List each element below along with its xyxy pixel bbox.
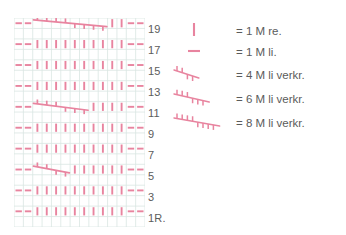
legend-item: = 4 M li verkr.: [172, 64, 344, 85]
legend-label: = 4 M li verkr.: [236, 67, 305, 83]
legend: = 1 M re. = 1 M li. = 4 M li verkr. = 6 …: [172, 20, 344, 135]
row-label: 17: [148, 44, 161, 56]
knitting-chart-root: 19 17 15 13 11 9 7 5 3 1R. = 1 M re. = 1…: [0, 0, 346, 235]
cable-4-symbol: [172, 64, 230, 85]
legend-item: = 6 M li verkr.: [172, 88, 344, 109]
legend-label: = 8 M li verkr.: [236, 115, 305, 131]
purl-stitch-symbol: [172, 41, 230, 62]
stitch-grid: [14, 18, 145, 227]
knit-stitch-symbol: [172, 20, 230, 41]
row-label: 11: [148, 107, 160, 119]
row-label: 5: [148, 170, 154, 182]
cable-6-symbol: [172, 88, 230, 109]
row-label: 1R.: [148, 212, 166, 224]
row-label: 15: [148, 65, 161, 77]
cable-8-symbol: [172, 112, 230, 133]
row-label: 13: [148, 86, 161, 98]
legend-label: = 6 M li verkr.: [236, 91, 305, 107]
stitch-grid-svg: [14, 18, 145, 227]
grid-lines: [14, 18, 145, 227]
row-label: 3: [148, 191, 154, 203]
row-label: 9: [148, 128, 154, 140]
legend-label: = 1 M li.: [236, 44, 277, 60]
row-label: 19: [148, 23, 161, 35]
legend-item: = 1 M li.: [172, 41, 344, 62]
legend-item: = 1 M re.: [172, 20, 344, 41]
legend-item: = 8 M li verkr.: [172, 112, 344, 133]
legend-label: = 1 M re.: [236, 23, 282, 39]
row-label: 7: [148, 149, 154, 161]
